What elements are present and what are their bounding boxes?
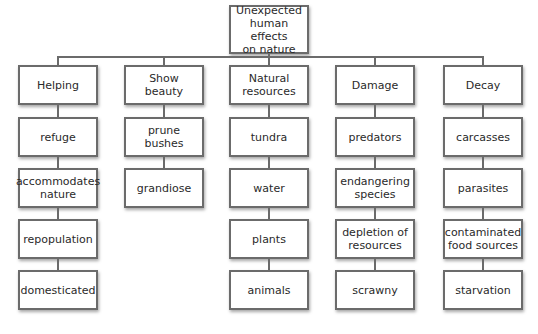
item-connector (374, 157, 376, 168)
item-node: water (229, 168, 309, 208)
item-node-label: tundra (251, 131, 288, 144)
root-node-label: Unexpectedhuman effectson nature (233, 4, 305, 56)
category-node: Decay (443, 65, 523, 105)
branch-connector (57, 56, 484, 58)
item-node-label: contaminatedfood sources (445, 226, 521, 252)
item-node: prune bushes (124, 117, 204, 157)
item-connector (374, 259, 376, 270)
item-node-label: refuge (40, 131, 76, 144)
item-connector (57, 259, 59, 270)
item-connector (374, 208, 376, 219)
item-node-label: repopulation (23, 233, 93, 246)
item-node-label: starvation (455, 284, 511, 297)
item-connector (163, 105, 165, 117)
item-node-label: domesticated (20, 284, 95, 297)
item-connector (268, 208, 270, 219)
column-connector (482, 56, 484, 65)
item-node-label: animals (247, 284, 290, 297)
item-node: scrawny (335, 270, 415, 310)
item-connector (268, 259, 270, 270)
item-connector (268, 157, 270, 168)
category-node: Damage (335, 65, 415, 105)
item-connector (57, 105, 59, 117)
item-node-label: carcasses (456, 131, 510, 144)
item-connector (163, 157, 165, 168)
item-node-label: water (253, 182, 284, 195)
item-node: accommodatesnature (18, 168, 98, 208)
item-node-label: endangeringspecies (340, 175, 410, 201)
item-connector (482, 157, 484, 168)
item-node-label: accommodatesnature (16, 175, 100, 201)
column-connector (163, 56, 165, 65)
item-node: carcasses (443, 117, 523, 157)
item-connector (482, 105, 484, 117)
item-connector (268, 105, 270, 117)
item-node: domesticated (18, 270, 98, 310)
category-node: Naturalresources (229, 65, 309, 105)
item-node-label: scrawny (352, 284, 398, 297)
category-node-label: Helping (37, 79, 79, 92)
item-node-label: depletion ofresources (342, 226, 408, 252)
item-node: animals (229, 270, 309, 310)
root-node: Unexpectedhuman effectson nature (229, 5, 309, 54)
column-connector (374, 56, 376, 65)
item-node-label: parasites (458, 182, 509, 195)
item-connector (57, 208, 59, 219)
item-node: endangeringspecies (335, 168, 415, 208)
item-node: grandiose (124, 168, 204, 208)
column-connector (268, 56, 270, 65)
item-node-label: predators (348, 131, 401, 144)
item-node: tundra (229, 117, 309, 157)
item-node: contaminatedfood sources (443, 219, 523, 259)
item-node-label: grandiose (137, 182, 191, 195)
item-connector (57, 157, 59, 168)
item-connector (482, 259, 484, 270)
category-node-label: Damage (352, 79, 398, 92)
category-node: Showbeauty (124, 65, 204, 105)
item-node: predators (335, 117, 415, 157)
item-connector (482, 208, 484, 219)
item-node: plants (229, 219, 309, 259)
item-node-label: prune bushes (128, 124, 200, 150)
item-node: depletion ofresources (335, 219, 415, 259)
item-node: refuge (18, 117, 98, 157)
item-connector (374, 105, 376, 117)
item-node: starvation (443, 270, 523, 310)
category-node-label: Naturalresources (242, 72, 295, 98)
column-connector (57, 56, 59, 65)
item-node: repopulation (18, 219, 98, 259)
item-node: parasites (443, 168, 523, 208)
item-node-label: plants (252, 233, 286, 246)
category-node: Helping (18, 65, 98, 105)
category-node-label: Decay (466, 79, 501, 92)
category-node-label: Showbeauty (145, 72, 183, 98)
